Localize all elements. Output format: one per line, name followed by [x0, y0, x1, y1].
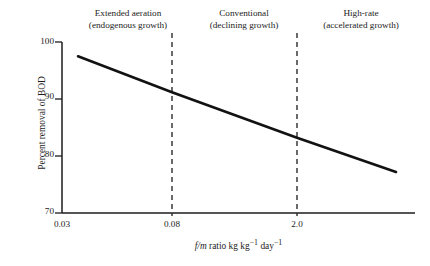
plot-area	[0, 0, 430, 266]
chart-figure: Extended aeration (endogenous growth) Co…	[0, 0, 430, 266]
data-line-bod-removal	[78, 56, 396, 172]
